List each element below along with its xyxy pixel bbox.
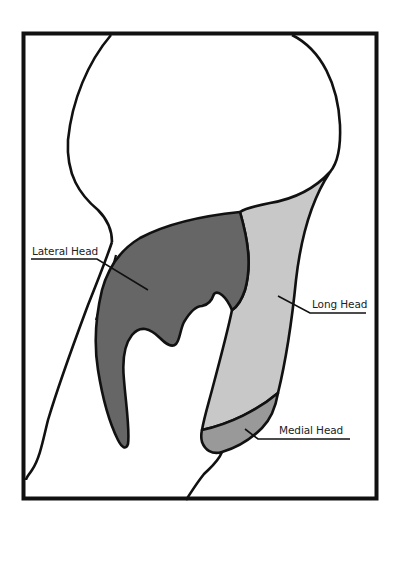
triceps-diagram xyxy=(0,0,400,565)
long-head-label: Long Head xyxy=(312,298,367,310)
medial-head-label: Medial Head xyxy=(279,424,343,436)
lateral-head-label: Lateral Head xyxy=(32,245,98,257)
